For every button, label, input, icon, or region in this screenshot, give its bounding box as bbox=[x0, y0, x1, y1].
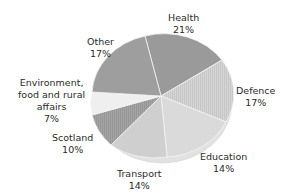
label-education: Education14% bbox=[200, 151, 247, 175]
label-health: Health21% bbox=[168, 12, 199, 36]
label-transport: Transport14% bbox=[117, 168, 162, 192]
label-defence: Defence17% bbox=[236, 85, 275, 109]
label-environment: Environment, food and rural affairs 7% bbox=[18, 77, 85, 125]
label-scotland: Scotland10% bbox=[52, 132, 93, 156]
label-other: Other17% bbox=[87, 36, 114, 60]
